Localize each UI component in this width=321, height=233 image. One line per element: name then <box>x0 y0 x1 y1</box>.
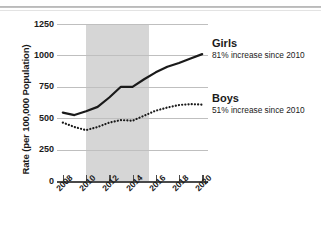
y-axis-tick-group: 025050075010001250 <box>10 0 54 233</box>
plot-area <box>57 24 208 181</box>
series-detail-boys: 51% increase since 2010 <box>212 105 320 115</box>
annotation-leaders <box>206 40 226 160</box>
series-detail-girls: 81% increase since 2010 <box>212 50 320 60</box>
series-annotation-boys: Boys 51% increase since 2010 <box>212 92 320 115</box>
series-line-girls <box>63 54 202 115</box>
series-line-boys <box>63 104 202 130</box>
chart-figure: Rate (per 100,000 Population) 0250500750… <box>0 0 321 233</box>
series-annotation-girls: Girls 81% increase since 2010 <box>212 37 320 60</box>
y-axis-tick-label: 1250 <box>16 20 54 29</box>
y-axis-tick-label: 250 <box>16 145 54 154</box>
y-axis-tick-label: 1000 <box>16 51 54 60</box>
y-axis-tick-label: 0 <box>16 177 54 186</box>
series-label-girls: Girls <box>212 37 320 49</box>
series-label-boys: Boys <box>212 92 320 104</box>
y-axis-tick-label: 500 <box>16 114 54 123</box>
series-lines <box>57 24 208 181</box>
y-axis-tick-label: 750 <box>16 82 54 91</box>
